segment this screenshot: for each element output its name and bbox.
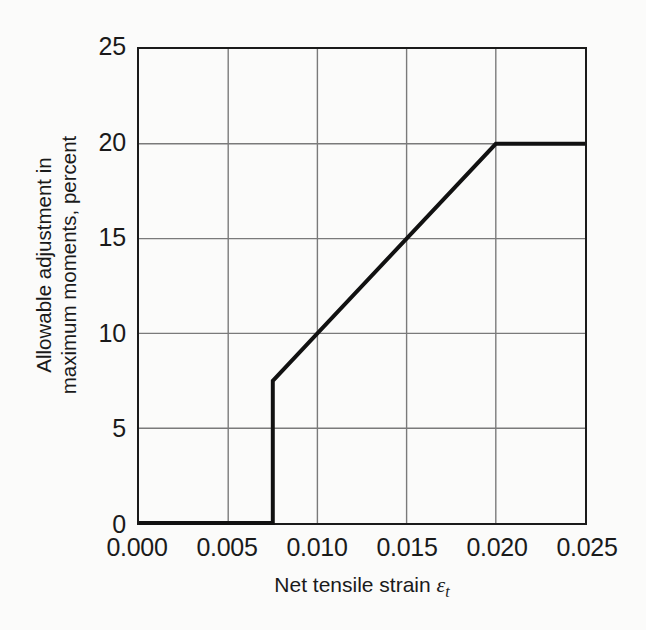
y-tick-label: 25 [78, 34, 126, 59]
x-tick-label: 0.025 [532, 533, 642, 561]
epsilon-subscript: t [445, 583, 449, 600]
y-axis-tick-labels: 0510152025 [74, 47, 126, 525]
y-tick-label: 20 [78, 130, 126, 155]
y-tick-label: 10 [78, 321, 126, 346]
x-axis-title: Net tensile strain εt [137, 572, 587, 598]
x-axis-title-text: Net tensile strain [274, 573, 430, 596]
x-axis-tick-labels: 0.0000.0050.0100.0150.0200.025 [137, 533, 587, 567]
y-tick-label: 15 [78, 225, 126, 250]
y-tick-label: 5 [78, 416, 126, 441]
chart-figure: 0510152025 0.0000.0050.0100.0150.0200.02… [0, 0, 646, 630]
y-axis-title: Allowable adjustment in maximum moments,… [31, 65, 81, 465]
plot-area [137, 47, 587, 525]
data-series-line [139, 49, 585, 523]
y-axis-title-line1: Allowable adjustment in [31, 65, 56, 465]
y-axis-title-line2: maximum moments, percent [56, 65, 81, 465]
epsilon-symbol: ε [437, 572, 446, 597]
